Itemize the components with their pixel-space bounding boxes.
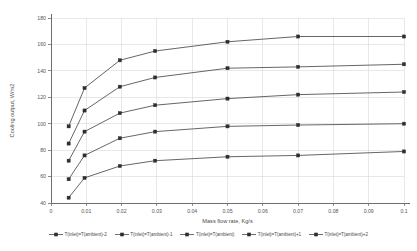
y-axis-title: Cooling output, W/m2	[9, 84, 15, 138]
data-point-marker	[118, 112, 121, 115]
y-tick-label: 100	[37, 121, 46, 127]
y-tick-label: 160	[37, 41, 46, 47]
plot-area: 406080100120140160180 00.010.020.030.040…	[0, 0, 417, 226]
data-point-marker	[83, 154, 86, 157]
x-tick-label: 0.01	[81, 208, 91, 214]
legend-label: T(inlet)=T(ambient)-2	[65, 232, 107, 237]
data-point-marker	[226, 67, 229, 70]
x-axis-ticks: 00.010.020.030.040.050.060.070.080.090.1	[50, 203, 408, 214]
data-point-marker	[226, 97, 229, 100]
data-point-marker	[402, 122, 405, 125]
y-tick-label: 120	[37, 94, 46, 100]
data-point-marker	[154, 159, 157, 162]
data-point-marker	[226, 40, 229, 43]
legend-label: T(inlet)=T(ambient)	[196, 232, 234, 237]
x-tick-label: 0.02	[117, 208, 127, 214]
chart-legend: T(inlet)=T(ambient)-2T(inlet)=T(ambient)…	[0, 227, 417, 251]
y-tick-label: 80	[40, 147, 46, 153]
y-tick-label: 60	[40, 173, 46, 179]
series-line	[69, 151, 404, 197]
data-point-marker	[67, 142, 70, 145]
data-point-marker	[226, 125, 229, 128]
legend-marker-icon	[115, 231, 129, 238]
data-series-group	[67, 35, 406, 199]
grid-lines	[51, 18, 404, 203]
data-point-marker	[154, 76, 157, 79]
y-tick-label: 40	[40, 200, 46, 206]
data-point-marker	[83, 130, 86, 133]
y-tick-label: 140	[37, 68, 46, 74]
legend-marker-icon	[49, 231, 63, 238]
data-point-marker	[67, 159, 70, 162]
x-tick-label: 0.04	[187, 208, 197, 214]
data-point-marker	[67, 196, 70, 199]
data-point-marker	[402, 150, 405, 153]
chart-figure: 406080100120140160180 00.010.020.030.040…	[0, 0, 417, 251]
legend-item[interactable]: T(inlet)=T(ambient)-2	[49, 231, 107, 238]
data-point-marker	[118, 137, 121, 140]
data-series	[67, 63, 406, 145]
legend-label: T(inlet)=T(ambient)-1	[130, 232, 172, 237]
y-tick-label: 180	[37, 15, 46, 21]
data-point-marker	[67, 125, 70, 128]
data-series	[67, 122, 406, 181]
data-point-marker	[402, 35, 405, 38]
legend-item[interactable]: T(inlet)=T(ambient)	[180, 231, 234, 238]
data-point-marker	[402, 90, 405, 93]
x-tick-label: 0.06	[258, 208, 268, 214]
data-point-marker	[154, 130, 157, 133]
data-point-marker	[226, 155, 229, 158]
data-point-marker	[297, 93, 300, 96]
x-tick-label: 0.09	[364, 208, 374, 214]
y-axis-ticks: 406080100120140160180	[37, 15, 51, 206]
x-tick-label: 0.1	[400, 208, 407, 214]
data-point-marker	[297, 35, 300, 38]
data-point-marker	[297, 154, 300, 157]
data-point-marker	[118, 59, 121, 62]
data-point-marker	[154, 49, 157, 52]
legend-marker-icon	[242, 231, 256, 238]
legend-marker-icon	[180, 231, 194, 238]
data-point-marker	[83, 86, 86, 89]
legend-label: T(inlet)=T(ambient)+1	[258, 232, 301, 237]
x-tick-label: 0.03	[152, 208, 162, 214]
x-axis-title: Mass flow rate, Kg/s	[202, 218, 253, 224]
data-series	[67, 150, 406, 199]
legend-item[interactable]: T(inlet)=T(ambient)+2	[309, 231, 368, 238]
data-point-marker	[83, 176, 86, 179]
data-point-marker	[67, 178, 70, 181]
legend-marker-icon	[309, 231, 323, 238]
x-tick-label: 0.08	[328, 208, 338, 214]
line-chart: 406080100120140160180 00.010.020.030.040…	[0, 0, 417, 226]
data-point-marker	[402, 63, 405, 66]
data-point-marker	[83, 109, 86, 112]
data-point-marker	[297, 65, 300, 68]
legend-label: T(inlet)=T(ambient)+2	[325, 232, 368, 237]
data-point-marker	[297, 123, 300, 126]
x-tick-label: 0	[50, 208, 53, 214]
series-line	[69, 124, 404, 180]
data-point-marker	[118, 164, 121, 167]
data-point-marker	[118, 85, 121, 88]
legend-item[interactable]: T(inlet)=T(ambient)+1	[242, 231, 301, 238]
legend-item[interactable]: T(inlet)=T(ambient)-1	[115, 231, 173, 238]
x-tick-label: 0.07	[293, 208, 303, 214]
x-tick-label: 0.05	[222, 208, 232, 214]
data-point-marker	[154, 104, 157, 107]
series-line	[69, 64, 404, 143]
